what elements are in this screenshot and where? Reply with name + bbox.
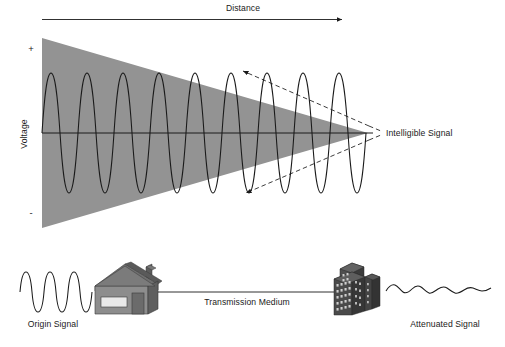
signal-attenuation-diagram: Distance Voltage + - Intelligib — [0, 0, 505, 347]
origin-signal-group: Origin Signal — [20, 272, 92, 329]
voltage-positive-tick: + — [28, 43, 34, 54]
office-building-icon — [334, 263, 380, 315]
callout-dashed-leg-upper — [369, 126, 381, 131]
house-door — [132, 293, 144, 314]
voltage-axis-label: Voltage — [19, 119, 29, 148]
house-icon — [95, 262, 162, 314]
house-window — [101, 297, 127, 307]
attenuated-signal-wave — [386, 285, 491, 294]
distance-axis-label: Distance — [226, 3, 260, 13]
origin-signal-label: Origin Signal — [28, 319, 79, 329]
transmission-medium-label: Transmission Medium — [204, 297, 290, 307]
callout-dashed-leg-lower — [369, 135, 381, 140]
transmission-medium-group: Transmission Medium — [158, 292, 336, 307]
voltage-negative-tick: - — [29, 207, 32, 218]
origin-signal-wave — [20, 272, 92, 312]
attenuated-signal-label: Attenuated Signal — [410, 319, 480, 329]
attenuated-signal-group: Attenuated Signal — [386, 285, 491, 329]
intelligible-signal-label: Intelligible Signal — [386, 128, 452, 138]
building-wing-right — [365, 274, 372, 311]
distance-axis: Distance — [42, 3, 342, 20]
diagram-canvas: Distance Voltage + - Intelligib — [0, 0, 505, 347]
voltage-axis: Voltage + - — [19, 43, 34, 218]
